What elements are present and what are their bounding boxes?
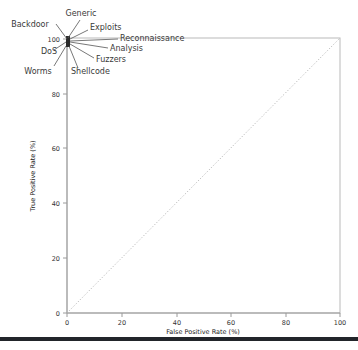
x-tick-label-100: 100 [334, 319, 346, 327]
roc-curve-figure: 100 80 60 40 20 0 0 20 40 60 80 100 Fals… [0, 0, 358, 350]
y-tick-label-20: 20 [52, 255, 60, 263]
point-label-backdoor: Backdoor [11, 20, 49, 29]
y-tick-label-0: 0 [56, 310, 60, 318]
y-tick-label-80: 80 [52, 91, 60, 99]
x-tick-label-0: 0 [65, 319, 69, 327]
x-axis-title: False Positive Rate (%) [166, 328, 240, 336]
leader-line-fuzzers [70, 44, 94, 58]
leader-line-shellcode [69, 46, 78, 68]
point-label-fuzzers: Fuzzers [96, 55, 126, 64]
x-tick-label-60: 60 [227, 319, 235, 327]
point-label-analysis: Analysis [110, 44, 143, 53]
x-tick-label-80: 80 [282, 319, 290, 327]
y-axis-title: True Positive Rate (%) [29, 140, 37, 212]
y-tick-label-60: 60 [52, 145, 60, 153]
bottom-separator-rule [0, 337, 358, 341]
point-label-worms: Worms [24, 67, 51, 76]
x-tick-label-20: 20 [118, 319, 126, 327]
chance-diagonal-line [67, 38, 340, 313]
x-tick-label-40: 40 [173, 319, 181, 327]
leader-line-reconnaissance [70, 39, 118, 41]
point-label-reconnaissance: Reconnaissance [120, 34, 184, 43]
point-label-generic: Generic [65, 9, 96, 18]
point-label-dos: DoS [41, 47, 57, 56]
plot-canvas: 100 80 60 40 20 0 0 20 40 60 80 100 Fals… [0, 0, 358, 350]
y-tick-label-100: 100 [48, 36, 60, 44]
point-label-exploits: Exploits [90, 23, 122, 32]
y-tick-label-40: 40 [52, 200, 60, 208]
point-label-shellcode: Shellcode [71, 67, 110, 76]
